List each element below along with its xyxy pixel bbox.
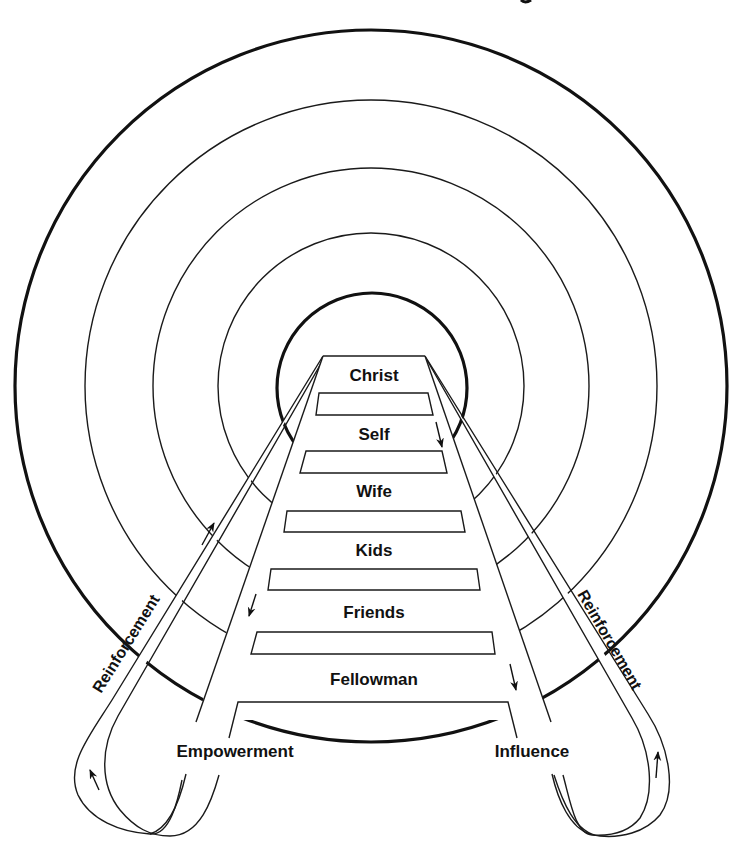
rung-label-friends: Friends bbox=[343, 603, 404, 622]
rung-label-christ: Christ bbox=[349, 366, 398, 385]
rung-label-fellowman: Fellowman bbox=[330, 670, 418, 689]
rung-label-kids: Kids bbox=[356, 541, 393, 560]
cropped-title-fragment bbox=[521, 0, 531, 2]
ladder-of-influence-diagram: Christ Self Wife Kids Friends Fellowman … bbox=[0, 0, 734, 860]
influence-label: Influence bbox=[495, 742, 570, 761]
rung-label-wife: Wife bbox=[356, 482, 392, 501]
empowerment-label: Empowerment bbox=[176, 742, 293, 761]
rung-label-self: Self bbox=[358, 425, 390, 444]
